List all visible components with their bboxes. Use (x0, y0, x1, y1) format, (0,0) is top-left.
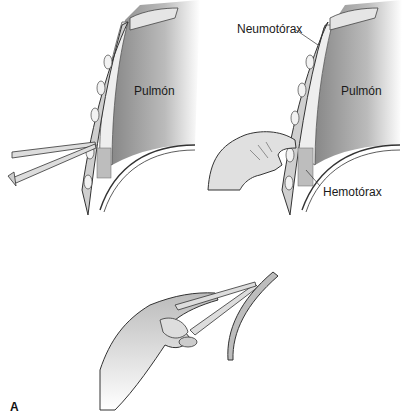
hemothorax-label: Hemotórax (323, 185, 382, 199)
kelly-clamp-icon (8, 142, 96, 186)
pneumothorax-label: Neumotórax (237, 22, 302, 36)
panel-finger-exploration: Neumotórax Pulmón Hemotórax (200, 0, 402, 220)
thoracic-wall-illustration (0, 0, 200, 220)
lung-label: Pulmón (134, 84, 175, 98)
panel-label: A (10, 400, 19, 414)
lung-label: Pulmón (341, 84, 382, 98)
hand-icon (100, 293, 218, 410)
panel-tube-insertion: A (0, 260, 402, 417)
panel-incision-clamp: Pulmón (0, 0, 200, 220)
chest-tube-clamp-illustration (0, 260, 402, 417)
